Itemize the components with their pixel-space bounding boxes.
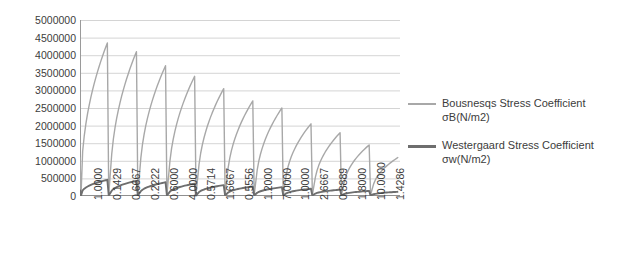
x-axis-tick-label: 7.0000 [282,168,293,200]
x-axis-tick-label: 0.5556 [244,168,255,200]
legend-item-westergaard: Westergaard Stress Coefficient σw(N/m2) [408,138,618,166]
y-axis-tick-label: 500000 [4,173,76,184]
legend-swatch-boussinesq [408,103,436,105]
y-axis-tick-label: 3500000 [4,68,76,79]
y-axis-tick-label: 5000000 [4,15,76,26]
series-line-boussinesq [80,43,398,195]
series-line-westergaard [80,180,398,196]
chart-container: 0500000100000015000002000000250000030000… [0,0,618,266]
x-axis-tick-label: 1.2000 [263,168,274,200]
x-axis-tick-label: 0.5714 [206,168,217,200]
x-axis-tick-label: 0.1429 [112,168,123,200]
x-axis-tick-label: 1.0000 [93,168,104,200]
legend-label-westergaard: Westergaard Stress Coefficient σw(N/m2) [442,138,618,166]
legend-swatch-westergaard [408,145,436,148]
x-axis-labels: 1.00000.14290.66670.22220.60004.00000.57… [80,200,400,266]
legend-item-boussinesq: Bousnesqs Stress Coefficient σB(N/m2) [408,96,618,124]
x-axis-tick-label: 1.6667 [225,168,236,200]
y-axis-tick-label: 4000000 [4,50,76,61]
chart-legend: Bousnesqs Stress Coefficient σB(N/m2) We… [408,96,618,180]
y-axis-tick-label: 2500000 [4,103,76,114]
y-axis-tick-label: 4500000 [4,33,76,44]
x-axis-tick-label: 2.6667 [319,168,330,200]
x-axis-tick-label: 0.6000 [169,168,180,200]
x-axis-tick-label: 0.2222 [150,168,161,200]
x-axis-tick-label: 0.8889 [338,168,349,200]
x-axis-tick-label: 0.6667 [131,168,142,200]
x-axis-tick-label: 10.0000 [376,162,387,200]
plot-area [80,20,400,196]
y-axis-tick-label: 1500000 [4,138,76,149]
axis-lines [80,20,400,196]
chart-svg [80,20,400,196]
x-axis-tick-label: 4.0000 [188,168,199,200]
legend-label-boussinesq: Bousnesqs Stress Coefficient σB(N/m2) [442,96,618,124]
y-axis-tick-label: 3000000 [4,85,76,96]
gridlines [80,21,400,197]
y-axis-tick-label: 1000000 [4,156,76,167]
x-axis-tick-label: 1.4286 [395,168,406,200]
y-axis-labels: 0500000100000015000002000000250000030000… [0,0,76,210]
y-axis-tick-label: 0 [4,191,76,202]
x-axis-tick-label: 1.0000 [300,168,311,200]
y-axis-tick-label: 2000000 [4,121,76,132]
x-axis-tick-label: 1.8000 [357,168,368,200]
